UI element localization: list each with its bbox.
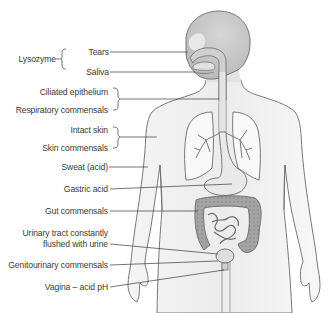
label-urinary-line2: flushed with urine [43,239,108,249]
label-gut-commensals: Gut commensals [45,206,108,216]
label-ciliated-epithelium: Ciliated epithelium [40,87,108,97]
label-skin-commensals: Skin commensals [42,143,108,153]
label-intact-skin: Intact skin [70,125,108,135]
label-sweat: Sweat (acid) [61,162,108,172]
label-lysozyme: Lysozyme [18,54,56,64]
label-saliva: Saliva [86,67,109,77]
airway [219,72,226,132]
defence-diagram: Lysozyme Tears Saliva Ciliated epitheliu… [0,0,329,313]
label-urinary-line1: Urinary tract constantly [23,228,108,238]
label-vagina: Vagina – acid pH [45,282,108,292]
label-respiratory-commensals: Respiratory commensals [16,105,108,115]
label-tears: Tears [88,47,109,57]
label-gastric-acid: Gastric acid [64,184,108,194]
label-genitourinary-commensals: Genitourinary commensals [8,260,108,270]
